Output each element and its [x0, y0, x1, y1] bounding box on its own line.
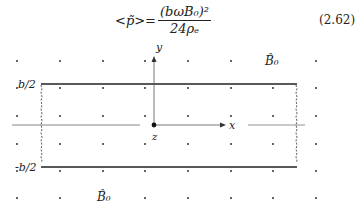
field-dot — [16, 115, 18, 117]
field-dot — [315, 170, 317, 172]
field-dot — [16, 143, 18, 145]
field-label-bottom: B̂₀ — [97, 192, 111, 203]
field-dot — [187, 143, 189, 145]
field-dot — [272, 115, 274, 117]
top-plate-label: b/2 — [18, 79, 36, 90]
field-dot — [59, 115, 61, 117]
field-dot — [102, 115, 104, 117]
field-dot — [315, 197, 317, 199]
field-dot — [16, 60, 18, 62]
field-dot — [230, 197, 232, 199]
field-dot — [187, 115, 189, 117]
diagram-canvas — [0, 0, 359, 211]
z-axis-label: z — [152, 131, 157, 142]
field-dot — [102, 87, 104, 89]
field-dot — [59, 170, 61, 172]
field-dot — [230, 143, 232, 145]
left-boundary — [41, 85, 42, 163]
field-dot — [144, 143, 146, 145]
field-dot — [102, 60, 104, 62]
field-dot — [59, 197, 61, 199]
right-boundary — [296, 85, 297, 163]
field-dot — [144, 60, 146, 62]
field-label-top: B̂₀ — [265, 56, 279, 67]
field-dot — [272, 143, 274, 145]
field-dot — [315, 115, 317, 117]
field-dot — [187, 60, 189, 62]
field-dot — [315, 143, 317, 145]
field-dot-grid — [16, 60, 317, 199]
field-dot — [272, 197, 274, 199]
x-axis-label: x — [229, 120, 235, 131]
field-dot — [230, 87, 232, 89]
field-dot — [144, 170, 146, 172]
field-dot — [272, 170, 274, 172]
field-dot — [315, 87, 317, 89]
field-dot — [102, 170, 104, 172]
field-dot — [187, 87, 189, 89]
field-dot — [230, 60, 232, 62]
field-dot — [272, 87, 274, 89]
field-dot — [144, 197, 146, 199]
field-dot — [230, 115, 232, 117]
field-dot — [59, 143, 61, 145]
field-dot — [144, 115, 146, 117]
field-dot — [59, 60, 61, 62]
bottom-plate-label: -b/2 — [15, 162, 36, 173]
field-dot — [59, 87, 61, 89]
field-dot — [102, 143, 104, 145]
field-dot — [144, 87, 146, 89]
x-axis-arrow-icon — [220, 123, 226, 128]
field-dot — [230, 170, 232, 172]
field-dot — [16, 197, 18, 199]
field-dot — [187, 170, 189, 172]
y-axis-label: y — [156, 42, 162, 53]
origin-z-axis-dot — [152, 123, 157, 128]
y-axis-arrow-icon — [152, 56, 157, 62]
field-dot — [187, 197, 189, 199]
field-dot — [315, 60, 317, 62]
